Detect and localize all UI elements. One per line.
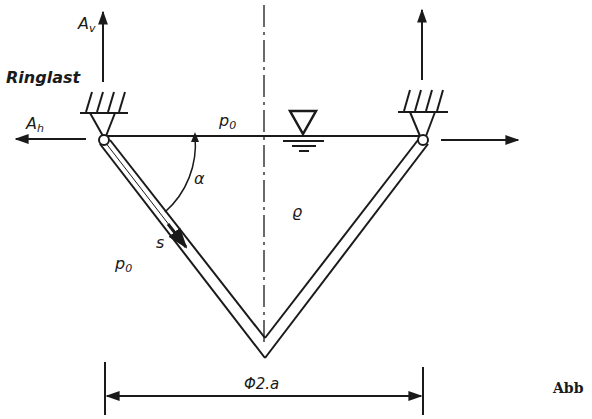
figure-caption: Abb <box>553 381 583 395</box>
alpha-angle-arc <box>165 136 195 212</box>
left-cone-wall <box>100 140 265 358</box>
p0-surface-label: p0 <box>219 113 236 131</box>
left-support-icon <box>80 92 128 145</box>
alpha-label: α <box>194 171 205 187</box>
ah-label: Ah <box>26 116 44 134</box>
rho-label: ϱ <box>292 204 302 220</box>
right-cone-wall <box>265 140 428 358</box>
p0-outside-label: p0 <box>115 256 132 274</box>
diameter-label: Φ2.a <box>244 377 279 392</box>
av-label: Av <box>78 16 95 34</box>
water-level-icon <box>283 111 324 151</box>
s-label: s <box>156 235 164 251</box>
ringlast-label: Ringlast <box>6 70 80 86</box>
